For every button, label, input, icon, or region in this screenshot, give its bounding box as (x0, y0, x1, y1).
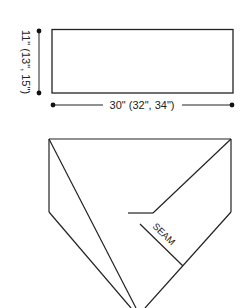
dimension-dot (230, 103, 235, 108)
flat-rectangle (52, 30, 233, 94)
width-dimension: 30" (32", 34") (51, 99, 235, 111)
width-label: 30" (32", 34") (110, 99, 175, 111)
inner-fold-right (153, 139, 231, 213)
lower-left-edge (49, 212, 131, 308)
height-dimension: 11" (13", 15") (20, 29, 41, 96)
assembled-cowl (49, 139, 231, 308)
inner-fold-left (49, 139, 136, 308)
height-label: 11" (13", 15") (20, 30, 32, 94)
seam-label: SEAM (151, 221, 178, 248)
dimension-dot (37, 29, 42, 34)
schematic-diagram: 11" (13", 15") 30" (32", 34") SEAM (0, 0, 247, 308)
dimension-dot (37, 91, 42, 96)
rectangle-outline (52, 30, 233, 94)
dimension-dot (51, 103, 56, 108)
